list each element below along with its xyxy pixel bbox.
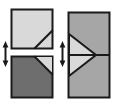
tall-mid-rectangle [69,13,110,98]
top-square-body [12,10,53,49]
bottom-dark-square [12,57,53,98]
geometry-diagram [0,0,118,108]
top-light-square [12,10,53,49]
figure-root [0,0,118,108]
